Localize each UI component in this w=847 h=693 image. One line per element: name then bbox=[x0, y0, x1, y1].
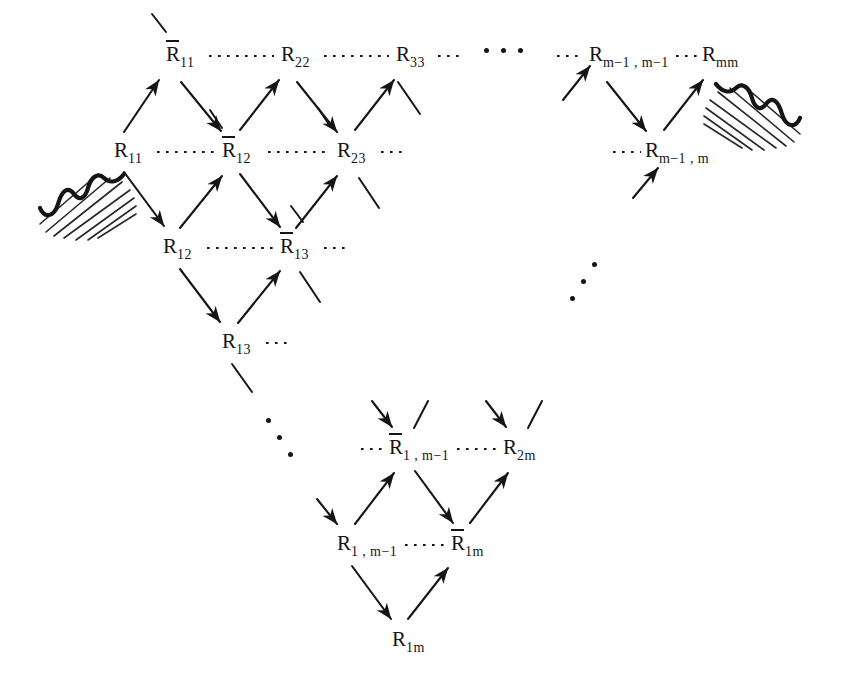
node-r-1-m1: R1 , m−1 bbox=[337, 533, 397, 554]
ellipsis-horizontal-top-dot-0 bbox=[484, 48, 489, 53]
ellipsis-diagonal-left-dot-2 bbox=[288, 452, 293, 457]
node-r-33-base: R bbox=[396, 44, 410, 65]
node-rbar-12-base: R bbox=[222, 140, 236, 161]
stub-below-r13 bbox=[232, 364, 252, 392]
node-rbar-1-m1-overbar bbox=[389, 433, 402, 435]
arrow-r11-to-rbar11 bbox=[124, 80, 159, 132]
decoration-hatch-right-hatch-0 bbox=[742, 84, 800, 134]
arrow-rm1m-to-rmm bbox=[664, 80, 703, 130]
arrow-layer bbox=[124, 66, 703, 619]
ellipsis-diagonal-right-dot-2 bbox=[570, 296, 575, 301]
node-r-33: R33 bbox=[396, 44, 425, 65]
stub-below-rbar13 bbox=[300, 272, 320, 302]
node-r-23: R23 bbox=[337, 140, 366, 161]
node-r-2m: R2m bbox=[503, 437, 536, 458]
node-rbar-12-subscript: 12 bbox=[236, 152, 251, 166]
node-rbar-12: R12 bbox=[222, 140, 251, 161]
arrow-stub-to-rbar1m1 bbox=[372, 401, 392, 427]
node-rbar-1m-overbar bbox=[451, 529, 464, 531]
stub-below-r23 bbox=[359, 178, 379, 208]
arrow-r13-to-rbar13 bbox=[238, 271, 280, 323]
node-r-mm-base: R bbox=[702, 44, 716, 65]
decoration-hatch-right bbox=[704, 84, 800, 150]
arrow-r12-to-r13 bbox=[180, 269, 220, 322]
arrow-stub-to-rm1m1 bbox=[563, 66, 590, 100]
figure-canvas: R11R22R33Rm−1 , m−1RmmR11R12R23Rm−1 , mR… bbox=[0, 0, 847, 693]
node-r-23-base: R bbox=[337, 140, 351, 161]
node-rbar-13-base: R bbox=[280, 236, 294, 257]
node-rbar-1m: R1m bbox=[451, 533, 484, 554]
decoration-hatch-left-wave bbox=[40, 174, 124, 215]
decoration-hatch-left-hatch-0 bbox=[40, 174, 98, 224]
node-rbar-11: R11 bbox=[166, 44, 194, 65]
arrow-stub-to-rm1m bbox=[633, 168, 658, 198]
node-rbar-13-overbar bbox=[280, 232, 293, 234]
arrow-rbar1m1-to-rbar1m bbox=[415, 471, 453, 523]
ellipsis-horizontal-top-dot-1 bbox=[501, 48, 506, 53]
arrow-r1m1-to-r1m bbox=[352, 566, 391, 619]
decoration-hatch-right-hatch-3 bbox=[710, 100, 776, 148]
node-rbar-11-base: R bbox=[166, 44, 180, 65]
arrow-r23-to-r33 bbox=[355, 80, 394, 130]
node-rbar-1m-subscript: 1m bbox=[465, 545, 484, 559]
node-rbar-11-subscript: 11 bbox=[180, 56, 194, 70]
node-r-1m-base: R bbox=[392, 629, 406, 650]
node-r-2m-base: R bbox=[503, 437, 517, 458]
node-rbar-13-subscript: 13 bbox=[294, 248, 309, 262]
diagram-svg bbox=[0, 0, 847, 693]
decoration-hatch-right-wave bbox=[716, 84, 800, 125]
node-r-1m-subscript: 1m bbox=[406, 641, 425, 655]
node-r-m1-m: Rm−1 , m bbox=[645, 140, 709, 161]
node-r-11-base: R bbox=[114, 140, 128, 161]
node-r-12: R12 bbox=[163, 236, 192, 257]
node-r-m1-m-base: R bbox=[645, 140, 659, 161]
ellipsis-diagonal-left-dot-1 bbox=[277, 435, 282, 440]
node-rbar-1-m1: R1 , m−1 bbox=[389, 437, 449, 458]
dotted-link-layer bbox=[157, 56, 697, 545]
arrow-rbar13-to-r23 bbox=[296, 176, 337, 228]
node-r-23-subscript: 23 bbox=[351, 152, 366, 166]
decoration-hatch-left-hatch-5 bbox=[88, 206, 136, 240]
node-rbar-1-m1-base: R bbox=[389, 437, 403, 458]
node-r-13: R13 bbox=[222, 331, 251, 352]
arrow-r22-to-r23 bbox=[297, 82, 337, 132]
arrow-stub-to-r1m1 bbox=[317, 499, 337, 524]
ellipsis-diagonal-right-dot-0 bbox=[592, 262, 597, 267]
node-rbar-1m-base: R bbox=[451, 533, 465, 554]
stub-line-layer bbox=[152, 14, 542, 428]
node-r-33-subscript: 33 bbox=[410, 56, 425, 70]
decoration-hatch-left-hatch-3 bbox=[64, 190, 130, 238]
node-r-12-subscript: 12 bbox=[177, 248, 192, 262]
arrow-rbar11-to-rbar12 bbox=[181, 82, 221, 131]
arrow-rbar12-to-r22 bbox=[240, 80, 279, 130]
node-r-mm-subscript: mm bbox=[716, 56, 739, 70]
node-r-13-base: R bbox=[222, 331, 236, 352]
decoration-hatch-right-hatch-6 bbox=[704, 124, 742, 148]
node-r-m1-m-subscript: m−1 , m bbox=[659, 152, 709, 166]
node-r-2m-subscript: 2m bbox=[517, 449, 536, 463]
node-rbar-11-overbar bbox=[166, 40, 179, 42]
node-r-m1-m1-base: R bbox=[589, 44, 603, 65]
ellipsis-diagonal-right-dot-1 bbox=[581, 279, 586, 284]
node-r-1m: R1m bbox=[392, 629, 425, 650]
arrow-stub-to-r2m bbox=[486, 401, 506, 427]
stub-above-rbar11 bbox=[152, 14, 166, 32]
node-r-m1-m1-subscript: m−1 , m−1 bbox=[603, 56, 669, 70]
node-r-1-m1-base: R bbox=[337, 533, 351, 554]
stub-above-rbar13 bbox=[291, 206, 303, 222]
node-rbar-13: R13 bbox=[280, 236, 309, 257]
node-r-13-subscript: 13 bbox=[236, 343, 251, 357]
arrow-rm1m1-to-rm1m bbox=[607, 82, 646, 131]
node-r-11-subscript: 11 bbox=[128, 152, 142, 166]
arrow-rbar1m-to-r2m bbox=[470, 473, 508, 523]
node-rbar-12-overbar bbox=[222, 136, 235, 138]
node-rbar-1-m1-subscript: 1 , m−1 bbox=[403, 449, 449, 463]
stub-above-r2m bbox=[528, 401, 542, 428]
ellipsis-diagonal-left-dot-0 bbox=[266, 418, 271, 423]
arrow-rbar12-to-rbar13 bbox=[240, 174, 280, 227]
decoration-hatch-left bbox=[40, 174, 136, 240]
ellipsis-horizontal-top-dot-2 bbox=[518, 48, 523, 53]
node-r-m1-m1: Rm−1 , m−1 bbox=[589, 44, 669, 65]
node-r-22: R22 bbox=[281, 44, 310, 65]
arrow-r1m-to-rbar1m bbox=[408, 568, 448, 619]
